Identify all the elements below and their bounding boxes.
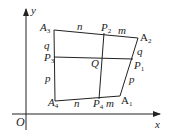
y-axis-label: y	[31, 5, 36, 16]
vertex-a1-label: A1	[121, 95, 132, 108]
vertex-a3-label: A3	[40, 22, 50, 35]
segment-p2-p4	[99, 33, 104, 99]
segment-label-right-lower: p	[129, 74, 135, 85]
point-p1-label: P1	[134, 60, 144, 73]
segment-label-left-lower: p	[45, 73, 51, 84]
segment-label-right-upper: q	[137, 46, 143, 57]
center-q-label: Q	[91, 58, 99, 69]
vertex-a2-label: A2	[140, 32, 151, 45]
point-p4-label: P4	[93, 98, 103, 111]
segment-label-bottom-right: m	[106, 98, 114, 109]
origin-label: O	[16, 116, 25, 128]
vertex-a4-label: A4	[48, 97, 58, 110]
segment-label-top-left: n	[77, 21, 83, 32]
segment-label-top-right: m	[118, 25, 126, 36]
x-axis-label: x	[155, 119, 160, 130]
point-p2-label: P2	[101, 22, 111, 35]
segment-label-left-upper: q	[44, 40, 50, 51]
point-p3-label: P3	[44, 52, 54, 65]
quadrilateral-diagram	[0, 0, 172, 136]
segment-label-bottom-left: n	[74, 98, 80, 109]
